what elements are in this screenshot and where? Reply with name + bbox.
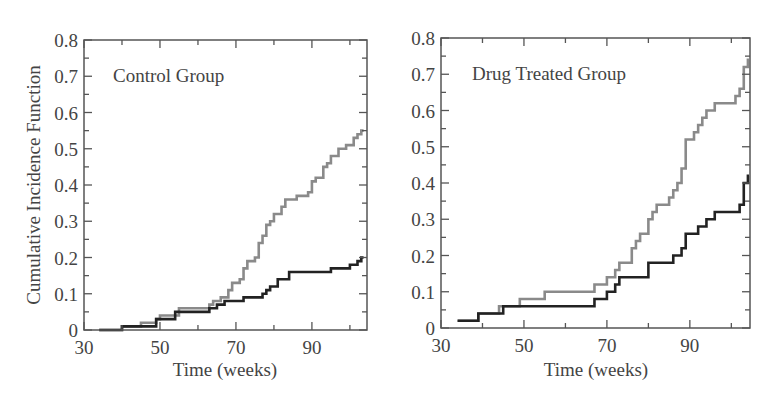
black-step-curve — [458, 176, 749, 321]
y-tick-label: 0.6 — [54, 103, 78, 124]
x-tick-label: 50 — [150, 337, 169, 358]
drug-treated-group-panel: Drug Treated Group Time (weeks) 30507090… — [411, 28, 750, 381]
x-tick-label: 90 — [302, 337, 321, 358]
x-tick-label: 90 — [680, 335, 699, 356]
black-step-curve — [99, 258, 363, 331]
y-tick-label: 0.1 — [54, 284, 78, 305]
y-tick-label: 0 — [426, 318, 436, 339]
y-tick-label: 0.8 — [411, 28, 435, 49]
panel-title-drug: Drug Treated Group — [472, 63, 626, 84]
gray-step-curve — [458, 60, 749, 321]
x-axis-title-drug: Time (weeks) — [544, 359, 648, 381]
x-axis-title-control: Time (weeks) — [173, 359, 277, 381]
y-tick-label: 0.2 — [411, 246, 435, 267]
panel-title-control: Control Group — [113, 65, 224, 86]
y-tick-label: 0.3 — [411, 209, 435, 230]
control-group-panel: Cumulative Incidence Function Control Gr… — [23, 30, 367, 381]
y-tick-label: 0.3 — [54, 211, 78, 232]
y-axis-title: Cumulative Incidence Function — [23, 65, 44, 305]
y-tick-label: 0.2 — [54, 248, 78, 269]
y-tick-label: 0.5 — [411, 137, 435, 158]
x-tick-label: 50 — [514, 335, 533, 356]
figure: Cumulative Incidence Function Control Gr… — [0, 0, 780, 399]
y-tick-label: 0.5 — [54, 139, 78, 160]
x-tick-label: 70 — [226, 337, 245, 358]
y-tick-label: 0 — [69, 320, 79, 341]
y-tick-label: 0.1 — [411, 282, 435, 303]
y-tick-label: 0.6 — [411, 101, 435, 122]
y-tick-label: 0.4 — [411, 173, 435, 194]
y-tick-label: 0.7 — [411, 64, 435, 85]
y-tick-label: 0.4 — [54, 175, 78, 196]
y-tick-label: 0.7 — [54, 66, 78, 87]
y-tick-label: 0.8 — [54, 30, 78, 51]
x-tick-label: 70 — [597, 335, 616, 356]
